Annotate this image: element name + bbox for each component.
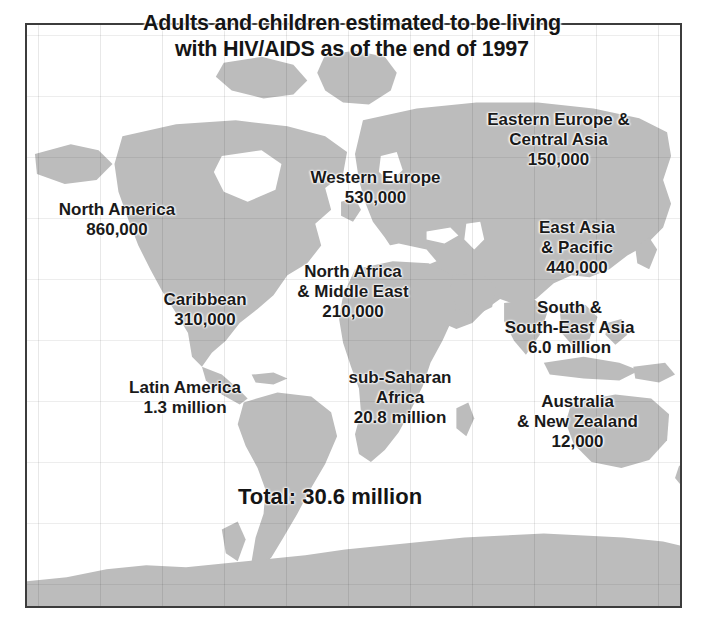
region-label-western-europe: Western Europe 530,000 (268, 168, 483, 208)
antarctica-shape (27, 533, 680, 606)
indonesia-shape (544, 357, 639, 381)
global-total-label: Total: 30.6 million (130, 484, 530, 510)
region-label-east-asia-pacific: East Asia & Pacific 440,000 (482, 218, 672, 278)
region-label-north-america: North America 860,000 (17, 200, 217, 240)
region-label-latin-america: Latin America 1.3 million (85, 378, 285, 418)
hiv-aids-world-map-figure: Adults and children estimated to be livi… (0, 0, 704, 634)
arctic-archipelago-shape (216, 57, 307, 99)
antarctic-peninsula-shape (222, 522, 246, 562)
region-label-south-and-south-east-asia: South & South-East Asia 6.0 million (462, 298, 677, 358)
region-label-australia-new-zealand: Australia & New Zealand 12,000 (470, 392, 685, 452)
region-label-sub-saharan-africa: sub-Saharan Africa 20.8 million (305, 368, 495, 428)
page-title: Adults and children estimated to be livi… (0, 10, 704, 62)
alaska-shape (35, 144, 113, 184)
region-label-eastern-europe-central-asia: Eastern Europe & Central Asia 150,000 (446, 110, 671, 170)
new-guinea-shape (633, 363, 675, 383)
region-label-north-africa-middle-east: North Africa & Middle East 210,000 (253, 262, 453, 322)
new-zealand-shape (675, 462, 680, 488)
